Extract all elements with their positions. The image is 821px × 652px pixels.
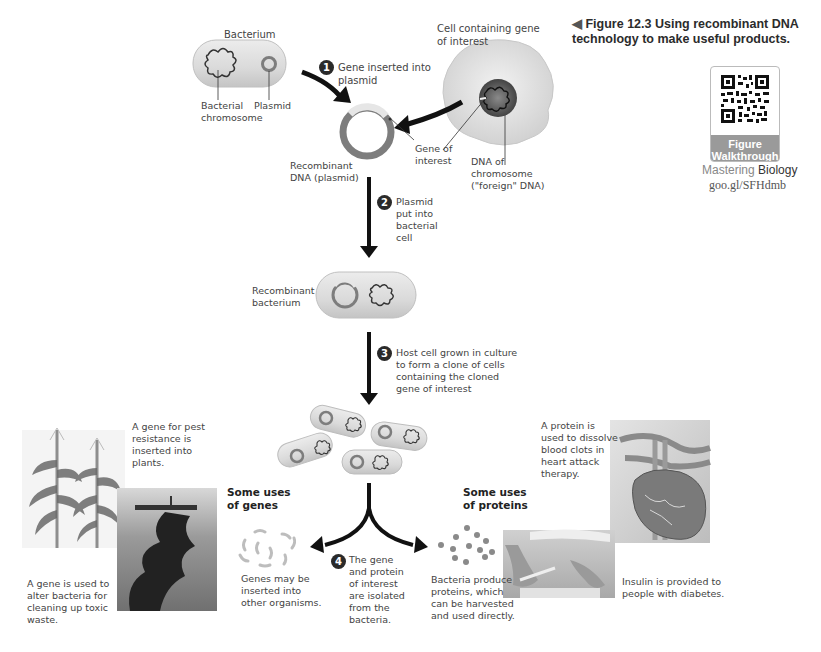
step-3-line: containing the cloned [396,371,499,382]
oil-spill-image [117,488,217,611]
proteins-heading-line1: Some uses [463,486,527,498]
protein-dots-icon [438,525,495,565]
proteins-heading: Some uses of proteins [463,486,528,512]
step-2-line: bacterial [396,220,438,231]
recombinant-bacterium [316,272,416,318]
recombinant-dna-label: Recombinant DNA (plasmid) [290,160,359,184]
blood-clots-text: A protein is used to dissolve blood clot… [541,420,618,480]
bacterial-chromosome-line1: Bacterial [201,100,243,111]
arrow-step-4 [310,483,428,553]
step-4-line: from the [349,602,390,613]
bacteria-produce-line: Bacteria produce [431,574,512,585]
plasmid-label: Plasmid [254,100,291,112]
step-4-line: are isolated [349,590,405,601]
recombinant-bacterium-label: Recombinant bacterium [252,285,315,309]
pest-resistance-line: resistance is [132,433,191,444]
insulin-line: people with diabetes. [622,588,724,599]
genes-inserted-text: Genes may be inserted into other organis… [241,573,322,609]
toxic-waste-line: waste. [27,614,58,625]
blood-clots-line: A protein is [541,420,595,431]
gene-of-interest-label: Gene of interest [415,143,452,167]
step-4-badge: 4 [331,554,346,569]
gene-of-interest-line2: interest [415,155,451,166]
recombinant-dna-line1: Recombinant [290,160,353,171]
genes-heading-line2: of genes [227,499,278,511]
pest-resistance-line: plants. [132,457,164,468]
step-4-line: The gene [349,554,393,565]
insulin-text: Insulin is provided to people with diabe… [622,576,724,600]
blood-clots-line: heart attack [541,456,599,467]
dna-of-chromosome-line2: chromosome [471,168,533,179]
genes-inserted-line: other organisms. [241,597,322,608]
dna-of-chromosome-label: DNA of chromosome ("foreign" DNA) [471,156,544,192]
bacterium-label: Bacterium [224,28,276,41]
step-1-text: Gene inserted into plasmid [338,61,431,87]
step-3-line: Host cell grown in culture [396,347,517,358]
insulin-injection-image [503,529,615,598]
step-3-badge: 3 [377,346,392,361]
recombinant-bacterium-line2: bacterium [252,297,300,308]
step-3-line: gene of interest [396,383,471,394]
step-4-line: bacteria. [349,614,391,625]
step-2-line: Plasmid [396,196,433,207]
step-4-line: of interest [349,578,398,589]
bacterial-chromosome-line2: chromosome [201,112,263,123]
step-3-text: Host cell grown in culture to form a clo… [396,347,517,395]
dna-of-chromosome-line3: ("foreign" DNA) [471,180,544,191]
recombinant-dna-diagram [0,0,821,652]
toxic-waste-text: A gene is used to alter bacteria for cle… [27,578,109,626]
step-1-badge: 1 [319,60,334,75]
step-2-badge: 2 [377,195,392,210]
step-4-text: The gene and protein of interest are iso… [349,554,405,626]
gene-of-interest-line1: Gene of [415,143,452,154]
step-1-line: plasmid [338,75,377,86]
recombinant-bacterium-line1: Recombinant [252,285,315,296]
recombinant-dna-line2: DNA (plasmid) [290,172,359,183]
insulin-line: Insulin is provided to [622,576,721,587]
dna-of-chromosome-line1: DNA of [471,156,504,167]
step-1-line: Gene inserted into [338,62,431,73]
bacterium [193,40,286,100]
genes-heading-line1: Some uses [227,486,291,498]
heart-image [610,420,710,543]
toxic-waste-line: A gene is used to [27,578,109,589]
step-2-line: put into [396,208,433,219]
bacteria-produce-line: proteins, which [431,586,503,597]
bacteria-clone [275,403,429,474]
donor-cell-line1: Cell containing gene [437,23,540,34]
pest-resistance-line: A gene for pest [132,421,205,432]
donor-cell-label: Cell containing gene of interest [437,22,540,48]
step-2-line: cell [396,232,412,243]
blood-clots-line: therapy. [541,468,580,479]
arrow-step-1 [302,72,343,100]
corn-plants-image [22,428,125,548]
step-4-line: and protein [349,566,404,577]
step-2-text: Plasmid put into bacterial cell [396,196,438,244]
genes-inserted-line: inserted into [241,585,301,596]
bacteria-produce-text: Bacteria produce proteins, which can be … [431,574,515,622]
toxic-waste-line: alter bacteria for [27,590,107,601]
bacteria-produce-line: and used directly. [431,610,515,621]
toxic-waste-line: cleaning up toxic [27,602,108,613]
genes-heading: Some uses of genes [227,486,291,512]
bacteria-produce-line: can be harvested [431,598,514,609]
proteins-heading-line2: of proteins [463,499,528,511]
blood-clots-line: blood clots in [541,444,604,455]
blood-clots-line: used to dissolve [541,432,618,443]
step-3-line: to form a clone of cells [396,359,505,370]
pest-resistance-line: inserted into [132,445,192,456]
pest-resistance-text: A gene for pest resistance is inserted i… [132,421,205,469]
genes-inserted-line: Genes may be [241,573,310,584]
gene-fragments-icon [240,531,295,567]
donor-cell-line2: of interest [437,36,488,47]
